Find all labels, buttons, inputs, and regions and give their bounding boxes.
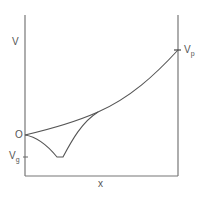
potential-diagram [0, 0, 204, 200]
vp-label-sub: p [191, 50, 195, 57]
vg-label-main: V [9, 150, 16, 161]
lower-curve [25, 112, 98, 157]
vp-label-main: V [184, 44, 191, 55]
x-axis-label: x [98, 179, 103, 189]
vg-label: Vg [9, 151, 20, 162]
vg-label-sub: g [16, 156, 20, 163]
upper-curve [25, 50, 178, 135]
origin-label: O [15, 130, 23, 140]
y-axis-label: V [12, 37, 19, 47]
vp-label: Vp [184, 45, 195, 56]
